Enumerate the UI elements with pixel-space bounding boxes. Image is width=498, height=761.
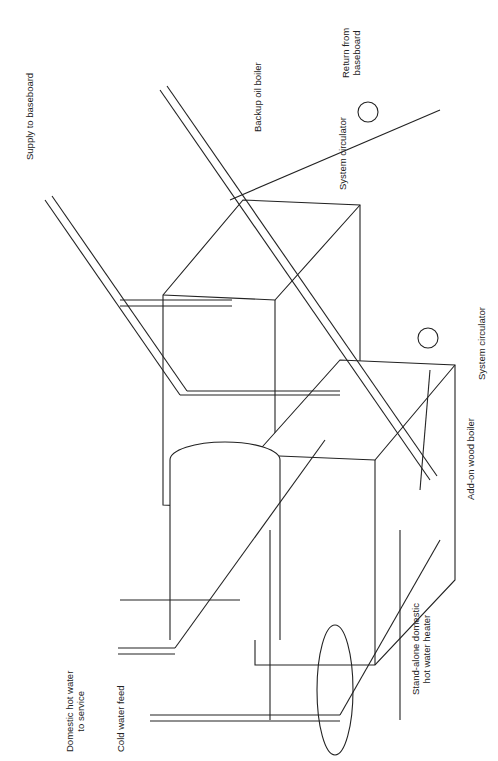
hot-water-heater-label: Stand-alone domestic hot water heater [410,603,432,695]
add-on-wood-boiler-label: Add-on wood boiler [465,418,476,500]
domestic-hot-water-label: Domestic hot water to service [64,671,86,752]
backup-oil-boiler-label: Backup oil boiler [252,62,263,132]
system-circulator-top-shape [358,102,378,122]
cold-water-feed-label: Cold water feed [115,685,126,752]
supply-to-baseboard-label: Supply to baseboard [24,73,35,160]
system-circulator-bottom-shape [418,328,438,348]
return-from-baseboard-label: Return from baseboard [340,28,362,78]
system-circulator-top-label: System circulator [337,117,348,190]
system-circulator-bottom-label: System circulator [476,307,487,380]
